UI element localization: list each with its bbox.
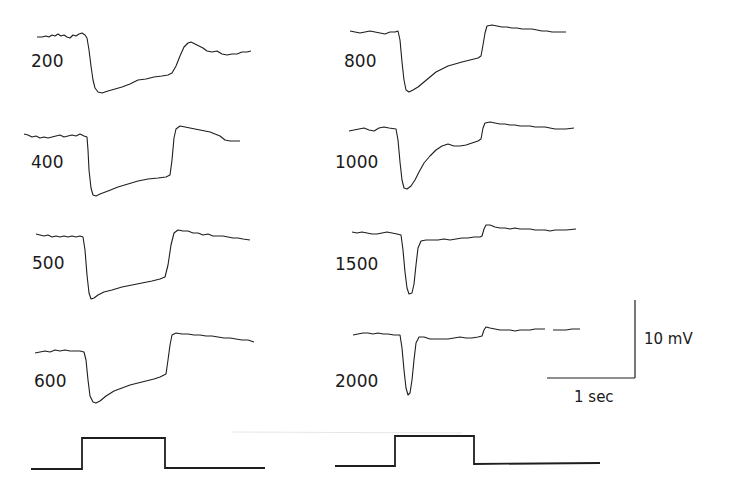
trace-label-500: 500 [32, 253, 64, 273]
trace-group-1000: 1000 [335, 122, 574, 189]
trace-label-400: 400 [31, 152, 63, 172]
scale-label-time: 1 sec [574, 388, 614, 406]
trace-2000 [353, 327, 580, 395]
scale-bar: 10 mV 1 sec [547, 300, 693, 406]
trace-800 [350, 25, 566, 92]
figure-canvas: 200 400 500 600 800 1000 1500 2000 10 mV… [0, 0, 729, 493]
scale-label-voltage: 10 mV [644, 330, 693, 348]
trace-group-500: 500 [32, 230, 250, 299]
trace-label-600: 600 [34, 371, 66, 391]
trace-group-400: 400 [24, 126, 240, 196]
trace-group-1500: 1500 [335, 225, 576, 294]
trace-1500 [352, 225, 576, 294]
trace-500 [36, 230, 250, 299]
trace-label-1500: 1500 [335, 254, 378, 274]
faint-artifact-line [232, 432, 462, 433]
trace-1000 [349, 122, 574, 189]
stimulus-pulse-right [335, 436, 600, 466]
trace-label-2000: 2000 [335, 371, 378, 391]
trace-group-200: 200 [31, 33, 251, 93]
stimulus-pulse-left [31, 438, 265, 469]
trace-600 [35, 333, 254, 403]
trace-group-2000: 2000 [335, 327, 580, 395]
trace-label-800: 800 [344, 51, 376, 71]
trace-label-200: 200 [31, 51, 63, 71]
trace-label-1000: 1000 [335, 152, 378, 172]
trace-200 [37, 33, 251, 93]
trace-group-600: 600 [34, 333, 254, 403]
trace-group-800: 800 [344, 25, 566, 92]
